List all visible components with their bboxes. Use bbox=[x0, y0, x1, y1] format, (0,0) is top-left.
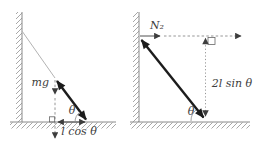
right-angle-marker-right bbox=[208, 38, 215, 45]
right-floor-hatching bbox=[130, 123, 250, 129]
right-diagram: N₂ 2l sin θ θ bbox=[130, 12, 253, 129]
right-angle-marker-left bbox=[50, 117, 55, 122]
normal-force-label: N₂ bbox=[149, 19, 164, 32]
right-wall-hatching bbox=[133, 12, 139, 122]
height-distance-label: 2l sin θ bbox=[211, 77, 253, 90]
left-angle-label: θ bbox=[69, 104, 76, 117]
base-distance-label: l cos θ bbox=[61, 125, 97, 138]
weight-label: mg bbox=[32, 76, 49, 89]
ladder-upper-half-line bbox=[22, 31, 55, 78]
ladder-diagram-svg: mg θ l cos θ N₂ 2l si bbox=[0, 0, 259, 152]
left-wall-hatching bbox=[16, 12, 22, 122]
left-diagram: mg θ l cos θ bbox=[10, 12, 116, 138]
left-angle-arc bbox=[75, 112, 80, 122]
physics-ladder-figure: mg θ l cos θ N₂ 2l si bbox=[0, 0, 259, 152]
right-angle-label: θ bbox=[188, 105, 195, 118]
